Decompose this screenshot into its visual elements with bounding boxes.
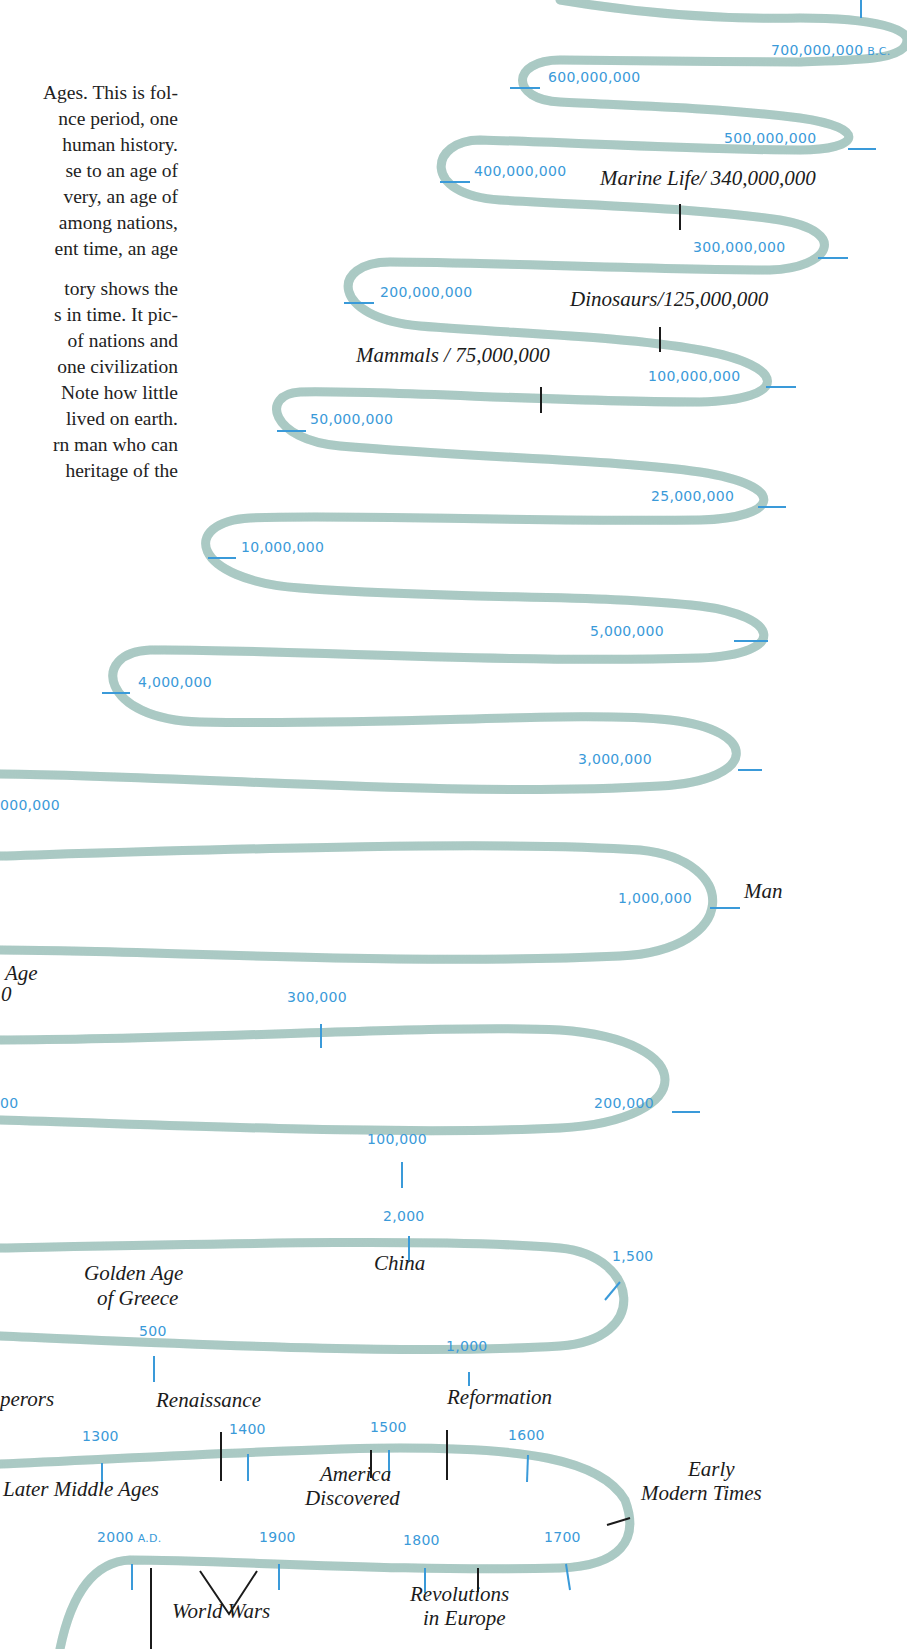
tick-label-1600: 1600 <box>508 1427 545 1443</box>
tick-value: 4,000,000 <box>138 674 212 690</box>
event-label-early: Early <box>688 1458 735 1481</box>
tick-value: 500 <box>139 1323 167 1339</box>
tick-label-1300: 1300 <box>82 1428 119 1444</box>
tick-value: 1500 <box>370 1419 407 1435</box>
tick-value: 3,000,000 <box>578 751 652 767</box>
tick-label-1500bc: 1,500 <box>612 1248 654 1264</box>
tick-label-200k: 200,000 <box>594 1095 654 1111</box>
tick-label-1500: 1500 <box>370 1419 407 1435</box>
tick-label-250k: 00 <box>0 1095 18 1111</box>
tick-label-1000bc: 1,000 <box>446 1338 488 1354</box>
tick-label-3m: 3,000,000 <box>578 751 652 767</box>
event-label-america-2: Discovered <box>305 1487 400 1510</box>
event-label-dinosaurs: Dinosaurs/125,000,000 <box>570 288 768 311</box>
tick-value: 1,000 <box>446 1338 488 1354</box>
tick-value: 1,500 <box>612 1248 654 1264</box>
event-label-marine-life: Marine Life/ 340,000,000 <box>600 167 816 190</box>
tick-value: 100,000 <box>367 1131 427 1147</box>
tick-value: 1300 <box>82 1428 119 1444</box>
tick-value: 1700 <box>544 1529 581 1545</box>
event-label-revolutions-2: in Europe <box>423 1607 506 1630</box>
era-suffix: B.C. <box>863 45 890 58</box>
timeline-page: Ages. This is fol-nce period, onehuman h… <box>0 0 907 1649</box>
tick-label-600m: 600,000,000 <box>548 69 640 85</box>
tick-value: 50,000,000 <box>310 411 393 427</box>
tick-label-1400: 1400 <box>229 1421 266 1437</box>
tick-label-700m: 700,000,000 B.C. <box>771 42 891 58</box>
tick-value: 1600 <box>508 1427 545 1443</box>
tick-label-1800: 1800 <box>403 1532 440 1548</box>
tick-value: 000,000 <box>0 797 60 813</box>
event-label-mammals: Mammals / 75,000,000 <box>356 344 550 367</box>
tick-value: 400,000,000 <box>474 163 566 179</box>
event-label-golden-age: Golden Age <box>84 1262 183 1285</box>
tick-label-1m: 1,000,000 <box>618 890 692 906</box>
tick-value: 500,000,000 <box>724 130 816 146</box>
tick-label-10m: 10,000,000 <box>241 539 324 555</box>
tick-label-2000ad: 2000 A.D. <box>97 1529 162 1545</box>
tick-label-25m: 25,000,000 <box>651 488 734 504</box>
tick-value: 2,000 <box>383 1208 425 1224</box>
tick-label-300m: 300,000,000 <box>693 239 785 255</box>
tick-label-1900: 1900 <box>259 1529 296 1545</box>
tick-label-1700: 1700 <box>544 1529 581 1545</box>
tick-value: 25,000,000 <box>651 488 734 504</box>
tick-value: 200,000,000 <box>380 284 472 300</box>
tick-value: 2000 <box>97 1529 134 1545</box>
tick-label-400m: 400,000,000 <box>474 163 566 179</box>
tick-label-500bc: 500 <box>139 1323 167 1339</box>
event-label-golden-age-2: of Greece <box>97 1287 178 1310</box>
tick-label-4m: 4,000,000 <box>138 674 212 690</box>
tick-value: 5,000,000 <box>590 623 664 639</box>
tick-label-100k: 100,000 <box>367 1131 427 1147</box>
event-label-emperors: perors <box>0 1388 54 1411</box>
event-label-later-middle-ages: Later Middle Ages <box>3 1478 159 1501</box>
tick-label-2m: 000,000 <box>0 797 60 813</box>
tick-value: 1400 <box>229 1421 266 1437</box>
tick-label-5m: 5,000,000 <box>590 623 664 639</box>
event-label-america: America <box>320 1463 391 1486</box>
tick-label-100m: 100,000,000 <box>648 368 740 384</box>
tick-label-500m: 500,000,000 <box>724 130 816 146</box>
event-label-revolutions: Revolutions <box>410 1583 509 1606</box>
event-label-china: China <box>374 1252 425 1275</box>
tick-value: 300,000 <box>287 989 347 1005</box>
tick-value: 00 <box>0 1095 18 1111</box>
tick-value: 10,000,000 <box>241 539 324 555</box>
tick-label-2000bc: 2,000 <box>383 1208 425 1224</box>
event-label-world-wars: World Wars <box>172 1600 270 1623</box>
tick-value: 1,000,000 <box>618 890 692 906</box>
tick-value: 1900 <box>259 1529 296 1545</box>
tick-label-50m: 50,000,000 <box>310 411 393 427</box>
event-label-reformation: Reformation <box>447 1386 552 1409</box>
tick-label-300k: 300,000 <box>287 989 347 1005</box>
tick-value: 200,000 <box>594 1095 654 1111</box>
tick-label-200m: 200,000,000 <box>380 284 472 300</box>
event-label-renaissance: Renaissance <box>156 1389 261 1412</box>
event-label-early-2: Modern Times <box>641 1482 762 1505</box>
event-label-age-partial-2: 0 <box>1 983 12 1006</box>
tick-value: 1800 <box>403 1532 440 1548</box>
tick-value: 600,000,000 <box>548 69 640 85</box>
era-suffix: A.D. <box>134 1532 162 1545</box>
event-label-man: Man <box>744 880 783 903</box>
tick-value: 100,000,000 <box>648 368 740 384</box>
tick-value: 700,000,000 <box>771 42 863 58</box>
tick-value: 300,000,000 <box>693 239 785 255</box>
